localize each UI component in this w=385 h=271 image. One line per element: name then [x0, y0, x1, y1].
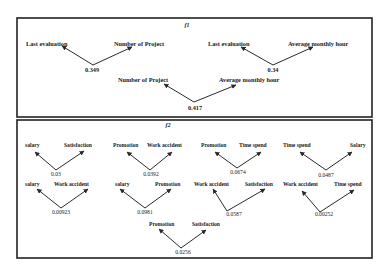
node-value: 0.00923 [52, 209, 70, 215]
node-value: 0.0392 [143, 171, 159, 177]
node-left-label: Work accident [283, 181, 318, 187]
pairwise-correlation-diagram: f1 Last evaluation Number of Project 0.3… [0, 0, 385, 271]
node-left-label: salary [25, 181, 40, 187]
node-left-label: Last evaluation [26, 40, 68, 47]
panel-f1: f1 Last evaluation Number of Project 0.3… [17, 18, 372, 117]
node-right-label: Promotion [155, 181, 181, 187]
node-value: 0.0674 [230, 169, 246, 175]
node-value: 0.349 [85, 66, 99, 73]
panel-f2-title: f2 [166, 122, 171, 128]
node-left-label: Work accident [194, 181, 229, 187]
node-right-label: Satisfaction [245, 181, 274, 187]
panel-f2-frame [17, 120, 372, 258]
node-left-label: salary [115, 181, 130, 187]
node-right-label: Satisfaction [192, 221, 221, 227]
node-value: 0.34 [267, 66, 279, 73]
node-right-label: Work accident [54, 181, 89, 187]
node-value: 0.417 [188, 104, 202, 111]
node-right-label: Salary [350, 142, 366, 148]
node-left-label: Promotion [201, 142, 227, 148]
panel-f2: f2 salary Satisfaction 0.03 Promotion Wo… [17, 120, 372, 258]
node-left-label: salary [25, 142, 40, 148]
node-right-label: Average monthly hour [288, 40, 349, 47]
node-left-label: Last evaluation [208, 40, 250, 47]
panel-f1-title: f1 [185, 22, 190, 28]
node-right-label: Number of Project [114, 40, 165, 47]
node-left-label: Promotion [113, 142, 139, 148]
node-value: 0.00252 [315, 211, 333, 217]
node-left-label: Number of Project [118, 76, 169, 83]
node-right-label: Average monthly hour [219, 76, 280, 83]
node-right-label: Time spend [239, 142, 268, 148]
node-value: 0.0981 [137, 209, 153, 215]
node-left-label: Time spend [283, 142, 312, 148]
node-right-label: Time spend [334, 181, 363, 187]
node-left-label: Promotion [149, 221, 175, 227]
node-value: 0.0256 [175, 249, 191, 255]
node-right-label: Work accident [147, 142, 182, 148]
node-value: 0.0587 [226, 211, 242, 217]
node-value: 0.03 [51, 171, 61, 177]
node-right-label: Satisfaction [64, 142, 93, 148]
node-value: 0.0487 [318, 172, 334, 178]
